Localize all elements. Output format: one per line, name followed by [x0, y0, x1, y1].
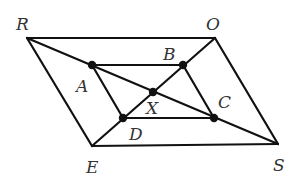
point-B-dot [179, 61, 187, 69]
point-C-dot [210, 114, 218, 122]
label-B: B [162, 44, 176, 64]
label-C: C [218, 92, 231, 112]
label-X: X [144, 98, 159, 118]
label-A: A [74, 76, 88, 96]
label-O: O [206, 14, 220, 34]
label-S: S [273, 155, 285, 175]
label-D: D [128, 124, 143, 144]
geometry-diagram: ROSEABCDX [0, 0, 300, 182]
point-A-dot [88, 61, 96, 69]
point-D-dot [119, 114, 127, 122]
point-X-dot [149, 88, 157, 96]
label-R: R [15, 14, 29, 34]
segment-SE [92, 144, 278, 146]
label-E: E [85, 157, 99, 177]
segment-OS [215, 38, 278, 144]
